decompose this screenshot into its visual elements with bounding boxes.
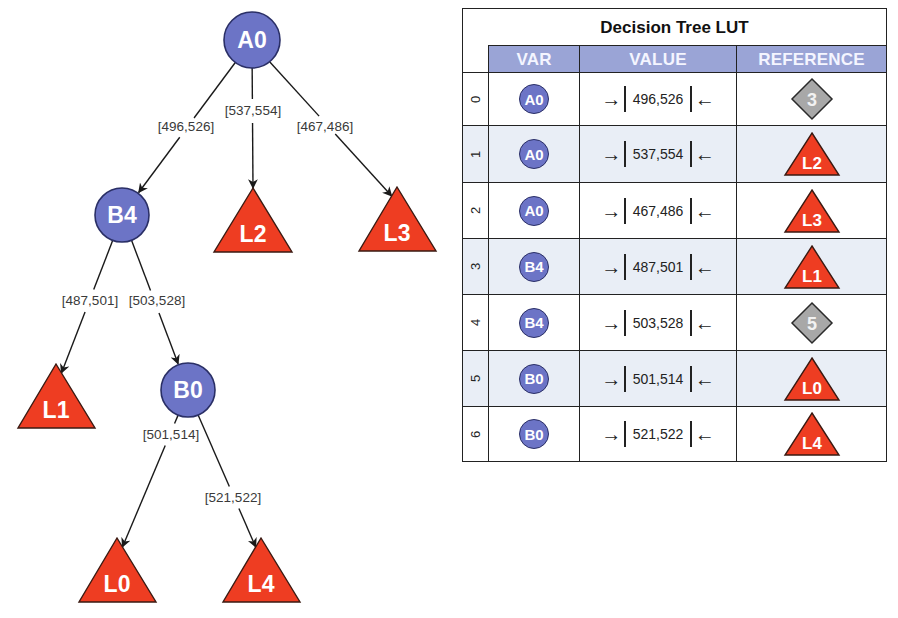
decision-tree: [496,526][537,554][467,486][487,501][503…	[0, 0, 460, 618]
edge-label: [487,501]	[62, 293, 118, 308]
triangle-leaf-reference-icon: L1	[782, 244, 842, 290]
triangle-leaf-reference-icon: L2	[782, 131, 842, 177]
range-value: 496,526	[633, 91, 684, 107]
lut-title: Decision Tree LUT	[463, 9, 886, 45]
arrow-right-icon: →	[601, 424, 621, 444]
range-bound-bar	[624, 366, 626, 392]
row-index-cell: 5	[463, 351, 488, 406]
arrow-left-icon: ←	[695, 313, 715, 333]
node-label: B0	[173, 377, 202, 403]
var-badge: B4	[519, 308, 549, 338]
arrow-right-icon: →	[601, 369, 621, 389]
range-bound-bar	[624, 421, 626, 447]
range-value: 501,514	[633, 371, 684, 387]
var-node-B0: B0	[161, 363, 215, 417]
diamond-reference-icon: 5	[782, 300, 842, 346]
edge-label: [521,522]	[205, 490, 261, 505]
leaf-node-L0: L0	[79, 538, 156, 602]
node-label: L2	[240, 221, 267, 247]
reference-cell: 5	[736, 295, 886, 350]
tree-edge-A0-L2: [537,554]	[225, 68, 281, 188]
lut-row: 0A0→496,526←3	[463, 72, 886, 125]
node-label: B4	[107, 202, 137, 228]
node-label: L3	[384, 220, 411, 246]
range-bound-bar	[624, 310, 626, 336]
leaf-node-L1: L1	[18, 364, 95, 428]
range-bound-bar	[624, 254, 626, 280]
edge-label: [496,526]	[158, 119, 214, 134]
arrow-right-icon: →	[601, 89, 621, 109]
var-cell: B4	[488, 295, 579, 350]
row-index-cell: 0	[463, 73, 488, 125]
reference-cell: L3	[736, 183, 886, 238]
var-cell: B4	[488, 239, 579, 294]
var-badge: A0	[519, 84, 549, 114]
edge-label: [501,514]	[143, 427, 199, 442]
range-bound-bar	[624, 198, 626, 224]
arrow-left-icon: ←	[695, 257, 715, 277]
var-cell: A0	[488, 73, 579, 125]
range-value: 537,554	[633, 146, 684, 162]
row-index: 2	[468, 207, 483, 214]
value-cell: →467,486←	[579, 183, 736, 238]
range-value: 487,501	[633, 259, 684, 275]
triangle-leaf-reference-icon: L0	[782, 356, 842, 402]
edge-label: [503,528]	[129, 293, 185, 308]
arrow-left-icon: ←	[695, 89, 715, 109]
row-index: 6	[468, 430, 483, 437]
column-header-reference: REFERENCE	[736, 45, 886, 72]
reference-cell: L4	[736, 407, 886, 461]
var-badge: B4	[519, 252, 549, 282]
arrow-right-icon: →	[601, 313, 621, 333]
row-index-cell: 1	[463, 126, 488, 182]
var-badge: A0	[519, 139, 549, 169]
tree-edge-A0-L3: [467,486]	[270, 62, 392, 196]
node-label: L0	[104, 571, 131, 597]
arrow-left-icon: ←	[695, 201, 715, 221]
var-node-A0: A0	[224, 12, 280, 68]
column-header-var: VAR	[488, 45, 579, 72]
leaf-node-L4: L4	[223, 538, 300, 602]
arrow-left-icon: ←	[695, 369, 715, 389]
node-label: L4	[248, 571, 275, 597]
range-value: 503,528	[633, 315, 684, 331]
arrow-right-icon: →	[601, 257, 621, 277]
row-index-cell: 4	[463, 295, 488, 350]
range-value: 467,486	[633, 203, 684, 219]
tree-edge-B0-L0: [501,514]	[122, 415, 199, 547]
var-cell: A0	[488, 183, 579, 238]
tree-edge-B0-L4: [521,522]	[198, 415, 261, 547]
arrow-left-icon: ←	[695, 424, 715, 444]
value-cell: →521,522←	[579, 407, 736, 461]
reference-label: 3	[806, 90, 816, 110]
var-badge: B0	[519, 364, 549, 394]
value-cell: →537,554←	[579, 126, 736, 182]
tree-edge-B4-L1: [487,501]	[61, 240, 118, 373]
row-index: 5	[468, 375, 483, 382]
reference-label: L0	[802, 379, 822, 398]
reference-label: L3	[802, 211, 822, 230]
arrow-right-icon: →	[601, 144, 621, 164]
lut-row: 6B0→521,522←L4	[463, 406, 886, 461]
row-index-cell: 2	[463, 183, 488, 238]
range-bound-bar	[690, 86, 692, 112]
row-index: 3	[468, 263, 483, 270]
reference-label: 5	[806, 314, 816, 334]
decision-tree-lut-table: Decision Tree LUT VAR VALUE REFERENCE 0A…	[462, 8, 887, 462]
range-bound-bar	[690, 421, 692, 447]
lut-row: 3B4→487,501←L1	[463, 238, 886, 294]
edge-label: [467,486]	[297, 119, 353, 134]
range-bound-bar	[690, 310, 692, 336]
tree-edge-B4-B0: [503,528]	[129, 240, 185, 364]
reference-label: L1	[802, 267, 822, 286]
var-badge: A0	[519, 196, 549, 226]
triangle-leaf-reference-icon: L4	[782, 411, 842, 457]
lut-row: 2A0→467,486←L3	[463, 182, 886, 238]
arrow-left-icon: ←	[695, 144, 715, 164]
triangle-leaf-reference-icon: L3	[782, 188, 842, 234]
node-label: L1	[43, 397, 70, 423]
node-label: A0	[237, 27, 266, 53]
row-index-cell: 6	[463, 407, 488, 461]
leaf-node-L2: L2	[214, 188, 292, 252]
tree-edge-A0-B4: [496,526]	[139, 62, 236, 192]
